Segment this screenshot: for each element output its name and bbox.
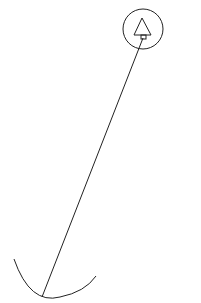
pivot-marker-square [141, 35, 146, 39]
pivot-triangle-icon [134, 18, 151, 35]
pivot-circle [123, 9, 163, 49]
pendulum-diagram [0, 0, 201, 303]
pendulum-rod [42, 38, 143, 297]
